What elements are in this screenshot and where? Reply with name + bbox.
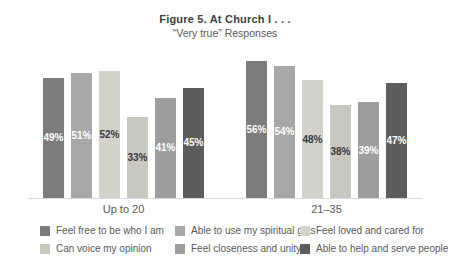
legend: Feel free to be who I amAble to use my s…: [0, 225, 450, 254]
chart-title: Figure 5. At Church I . . .: [0, 0, 450, 25]
plot-area: 49%51%52%33%41%45%56%54%48%38%39%47%: [28, 51, 422, 199]
bar-value-label: 48%: [302, 134, 322, 145]
legend-item: Able to help and serve people: [300, 243, 450, 254]
bar: 56%: [246, 61, 267, 198]
legend-item: Feel free to be who I am: [40, 225, 175, 236]
bar: 39%: [358, 102, 379, 198]
bar: 38%: [330, 105, 351, 198]
bar: 33%: [127, 117, 148, 198]
bar: 48%: [302, 80, 323, 198]
bar-group: 56%54%48%38%39%47%: [246, 51, 407, 198]
x-axis-category-labels: Up to 2021–35: [28, 203, 422, 215]
legend-label: Feel loved and cared for: [316, 225, 424, 236]
bar-value-label: 52%: [99, 129, 119, 140]
legend-label: Feel free to be who I am: [56, 225, 164, 236]
bar-value-label: 51%: [71, 130, 91, 141]
legend-label: Can voice my opinion: [56, 243, 152, 254]
legend-item: Can voice my opinion: [40, 243, 175, 254]
chart-subtitle: “Very true” Responses: [0, 27, 450, 39]
bar-value-label: 56%: [246, 124, 266, 135]
legend-item: Able to use my spiritual gifts: [175, 225, 300, 236]
legend-swatch-icon: [40, 226, 50, 236]
bar-value-label: 33%: [127, 152, 147, 163]
legend-swatch-icon: [175, 226, 185, 236]
bar: 51%: [71, 73, 92, 198]
bar-value-label: 49%: [43, 132, 63, 143]
bar: 54%: [274, 66, 295, 198]
legend-swatch-icon: [175, 244, 185, 254]
bar: 41%: [155, 98, 176, 198]
category-label: Up to 20: [43, 203, 204, 215]
bar-value-label: 45%: [183, 137, 203, 148]
bar-value-label: 38%: [330, 146, 350, 157]
category-label: 21–35: [246, 203, 407, 215]
legend-item: Feel closeness and unity: [175, 243, 300, 254]
bar-value-label: 39%: [358, 145, 378, 156]
bar-value-label: 54%: [274, 126, 294, 137]
bar: 47%: [386, 83, 407, 198]
legend-label: Feel closeness and unity: [191, 243, 301, 254]
figure-5-chart: Figure 5. At Church I . . . “Very true” …: [0, 0, 450, 275]
legend-item: Feel loved and cared for: [300, 225, 450, 236]
bar: 49%: [43, 78, 64, 198]
legend-swatch-icon: [300, 244, 310, 254]
bar-value-label: 47%: [386, 135, 406, 146]
legend-label: Able to help and serve people: [316, 243, 448, 254]
bar-group: 49%51%52%33%41%45%: [43, 51, 204, 198]
bar: 45%: [183, 88, 204, 198]
bar: 52%: [99, 71, 120, 198]
legend-swatch-icon: [300, 226, 310, 236]
legend-label: Able to use my spiritual gifts: [191, 225, 316, 236]
legend-swatch-icon: [40, 244, 50, 254]
bar-value-label: 41%: [155, 142, 175, 153]
